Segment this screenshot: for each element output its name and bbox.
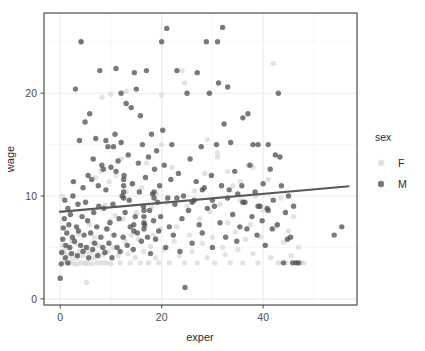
x-axis-tick-labels: 02040 xyxy=(57,311,269,323)
y-tick-label: 10 xyxy=(25,190,37,202)
legend-swatch-f[interactable] xyxy=(378,160,384,166)
legend-swatch-m[interactable] xyxy=(378,181,384,187)
chart-svg: 02040 01020 exper wage sex F M xyxy=(0,0,425,351)
y-tick-label: 20 xyxy=(25,87,37,99)
y-axis-tick-labels: 01020 xyxy=(25,87,37,305)
legend-label-m[interactable]: M xyxy=(398,178,407,190)
legend-title: sex xyxy=(375,131,392,143)
y-tick-label: 0 xyxy=(31,293,37,305)
legend: sex F M xyxy=(375,131,407,190)
legend-label-f[interactable]: F xyxy=(398,157,404,169)
y-axis-title: wage xyxy=(4,146,16,173)
x-tick-label: 40 xyxy=(257,311,269,323)
x-tick-label: 0 xyxy=(57,311,63,323)
x-axis-title: exper xyxy=(186,331,214,343)
x-tick-label: 20 xyxy=(156,311,168,323)
scatter-plot-figure: 02040 01020 exper wage sex F M xyxy=(0,0,425,351)
